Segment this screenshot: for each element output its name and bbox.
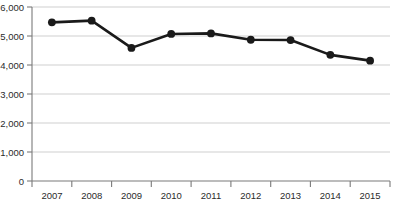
- x-label-2014: 2014: [320, 190, 341, 201]
- data-point-2008: [88, 17, 96, 25]
- y-label-6000: 6,000: [0, 2, 24, 13]
- x-label-2012: 2012: [240, 190, 261, 201]
- y-label-5000: 5,000: [0, 31, 24, 42]
- x-label-2015: 2015: [360, 190, 381, 201]
- chart-canvas: 6,000 5,000 4,000 3,000 2,000 1,000 0 20…: [0, 0, 396, 207]
- x-label-2013: 2013: [280, 190, 301, 201]
- data-point-2014: [326, 51, 334, 59]
- y-axis-labels: 6,000 5,000 4,000 3,000 2,000 1,000 0: [0, 2, 24, 187]
- y-label-4000: 4,000: [0, 60, 24, 71]
- y-label-1000: 1,000: [0, 147, 24, 158]
- line-chart: 6,000 5,000 4,000 3,000 2,000 1,000 0 20…: [0, 0, 396, 207]
- y-label-2000: 2,000: [0, 118, 24, 129]
- data-series-line: [52, 21, 370, 61]
- data-point-2010: [167, 30, 175, 38]
- data-point-2013: [287, 36, 295, 44]
- data-point-2009: [128, 44, 136, 52]
- x-label-2011: 2011: [201, 190, 221, 201]
- x-axis-labels: 2007 2008 2009 2010 2011 2012 2013 2014 …: [41, 190, 380, 201]
- data-point-2011: [207, 29, 215, 37]
- x-label-2008: 2008: [81, 190, 102, 201]
- data-point-2015: [366, 57, 374, 65]
- x-label-2009: 2009: [121, 190, 142, 201]
- y-label-3000: 3,000: [0, 89, 24, 100]
- x-label-2007: 2007: [41, 190, 62, 201]
- data-point-2012: [247, 36, 255, 44]
- x-tick-marks: [32, 181, 390, 187]
- y-tick-marks: [27, 7, 32, 181]
- x-label-2010: 2010: [161, 190, 182, 201]
- data-point-2007: [48, 18, 56, 26]
- gridlines: [32, 7, 390, 152]
- y-label-0: 0: [19, 176, 24, 187]
